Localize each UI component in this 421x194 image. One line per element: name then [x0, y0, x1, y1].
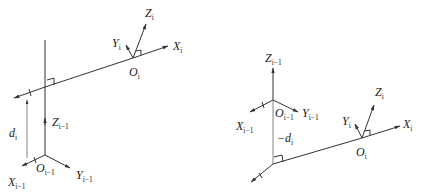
z-i-arrow	[362, 105, 374, 138]
x-i-arrow	[362, 126, 400, 138]
x-i-line	[45, 58, 133, 87]
label-o-prev: Oi−1	[36, 161, 55, 177]
y-prev-arrow	[45, 155, 70, 168]
right-diagram: Zi−1 Xi−1 Oi−1 Yi−1 −di Zi Yi Xi Oi	[235, 51, 412, 182]
label-z-i: Zi	[145, 6, 154, 22]
label-x-prev: Xi−1	[235, 119, 254, 135]
x-i-extension-arrow	[251, 164, 273, 182]
label-y-prev: Yi−1	[302, 106, 319, 122]
label-z-prev: Zi−1	[52, 115, 69, 131]
label-x-i: Xi	[172, 39, 182, 55]
label-o-i: Oi	[356, 145, 367, 161]
right-angle-mark-oi	[136, 50, 141, 55]
label-o-i: Oi	[129, 65, 140, 81]
label-d-i: di	[9, 126, 17, 142]
label-x-i: Xi	[402, 117, 412, 133]
dh-frame-diagram: Zi Yi Xi Oi Zi−1 di Oi−1 Xi−1 Yi−1 Zi−	[0, 0, 421, 194]
label-z-prev: Zi−1	[265, 51, 282, 67]
y-i-arrow	[126, 45, 133, 58]
right-angle-mark-oi	[365, 130, 370, 135]
left-diagram: Zi Yi Xi Oi Zi−1 di Oi−1 Xi−1 Yi−1	[7, 6, 182, 191]
z-i-arrow	[133, 24, 146, 58]
label-z-i: Zi	[375, 85, 384, 101]
label-x-prev: Xi−1	[7, 175, 26, 191]
y-i-arrow	[355, 124, 362, 138]
label-minus-d-i: −di	[277, 131, 293, 147]
x-prev-arrow	[250, 100, 273, 112]
label-y-i: Yi	[112, 36, 121, 52]
label-y-i: Yi	[342, 114, 351, 130]
label-y-prev: Yi−1	[76, 168, 93, 184]
x-i-arrow	[133, 46, 168, 58]
right-angle-mark	[274, 155, 283, 162]
